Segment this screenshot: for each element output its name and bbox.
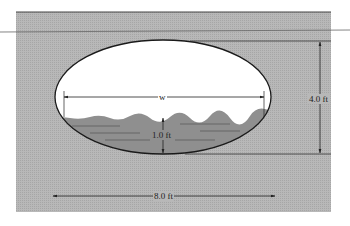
span-label: 8.0 ft — [153, 191, 174, 201]
w-label: w — [158, 92, 167, 102]
diagram-canvas — [0, 0, 350, 226]
depth-label: 1.0 ft — [151, 130, 172, 140]
culvert-diagram: w 1.0 ft 4.0 ft 8.0 ft — [0, 0, 350, 226]
height-label: 4.0 ft — [308, 94, 329, 104]
